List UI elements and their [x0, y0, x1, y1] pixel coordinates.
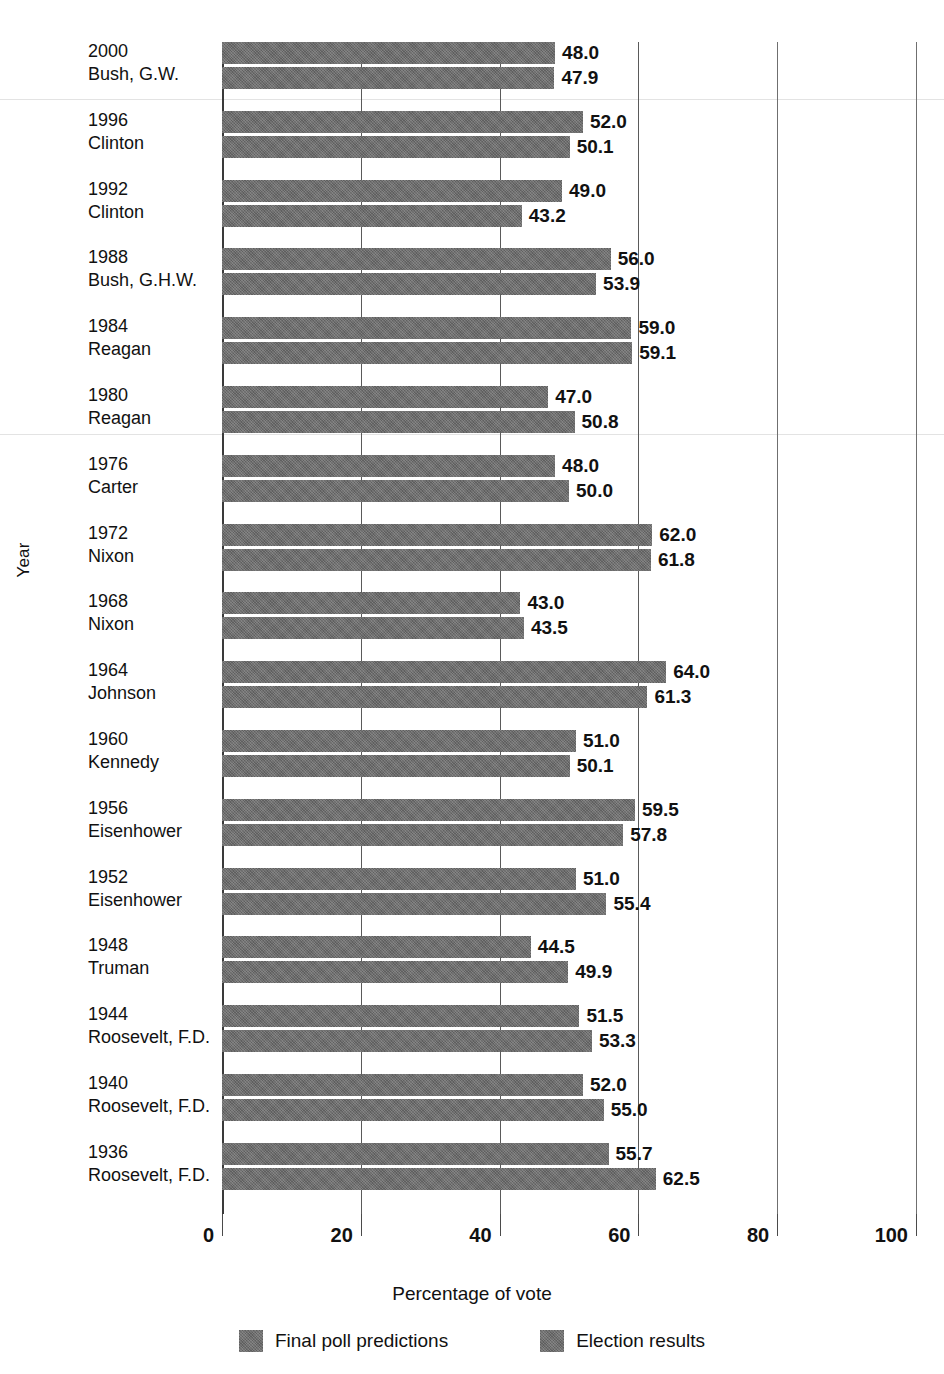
bar-value-poll: 62.0 — [652, 524, 696, 546]
category-year: 1936 — [88, 1141, 216, 1164]
bar-result[interactable] — [222, 617, 524, 639]
bar-poll[interactable] — [222, 455, 555, 477]
y-axis-title: Year — [14, 500, 34, 620]
bar-result[interactable] — [222, 686, 647, 708]
bar-result[interactable] — [222, 342, 632, 364]
bar-result[interactable] — [222, 411, 575, 433]
bar-value-result: 43.5 — [524, 617, 568, 639]
x-tick-60 — [638, 1214, 639, 1236]
bar-value-result: 50.0 — [569, 480, 613, 502]
bar-poll[interactable] — [222, 936, 531, 958]
category-president: Roosevelt, F.D. — [88, 1026, 216, 1049]
category-year: 1952 — [88, 866, 216, 889]
bar-chart-figure: Year 48.047.952.050.149.043.256.053.959.… — [0, 0, 944, 1374]
category-president: Bush, G.H.W. — [88, 269, 216, 292]
bar-value-poll: 55.7 — [609, 1143, 653, 1165]
bar-result[interactable] — [222, 893, 606, 915]
bar-poll[interactable] — [222, 180, 562, 202]
category-president: Reagan — [88, 338, 216, 361]
bar-value-result: 61.3 — [647, 686, 691, 708]
bar-result[interactable] — [222, 205, 522, 227]
category-year: 1976 — [88, 453, 216, 476]
legend-swatch-icon — [540, 1330, 564, 1352]
category-year: 1944 — [88, 1003, 216, 1026]
bar-poll[interactable] — [222, 868, 576, 890]
bar-poll[interactable] — [222, 248, 611, 270]
legend-swatch-icon — [239, 1330, 263, 1352]
bar-result[interactable] — [222, 824, 623, 846]
bar-poll[interactable] — [222, 386, 548, 408]
bar-value-result: 53.9 — [596, 273, 640, 295]
bar-result[interactable] — [222, 755, 570, 777]
bar-result[interactable] — [222, 136, 570, 158]
bar-value-poll: 49.0 — [562, 180, 606, 202]
bar-group: 51.050.1 — [222, 730, 916, 777]
legend-item[interactable]: Final poll predictions — [239, 1330, 448, 1352]
bar-result[interactable] — [222, 1030, 592, 1052]
category-label: 1992Clinton — [88, 178, 216, 224]
bar-value-result: 55.0 — [604, 1099, 648, 1121]
bar-poll[interactable] — [222, 730, 576, 752]
bar-poll[interactable] — [222, 799, 635, 821]
bar-result[interactable] — [222, 1099, 604, 1121]
bar-result[interactable] — [222, 1168, 656, 1190]
category-year: 1964 — [88, 659, 216, 682]
category-president: Truman — [88, 957, 216, 980]
bar-value-poll: 52.0 — [583, 1074, 627, 1096]
bar-group: 52.050.1 — [222, 111, 916, 158]
bar-group: 49.043.2 — [222, 180, 916, 227]
legend-item[interactable]: Election results — [540, 1330, 705, 1352]
bar-poll[interactable] — [222, 1143, 609, 1165]
category-year: 1948 — [88, 934, 216, 957]
category-year: 1988 — [88, 246, 216, 269]
bar-result[interactable] — [222, 67, 554, 89]
bar-poll[interactable] — [222, 111, 583, 133]
bar-group: 44.549.9 — [222, 936, 916, 983]
bar-poll[interactable] — [222, 1005, 579, 1027]
bar-poll[interactable] — [222, 524, 652, 546]
category-label: 1984Reagan — [88, 315, 216, 361]
bar-group: 48.050.0 — [222, 455, 916, 502]
bar-result[interactable] — [222, 549, 651, 571]
category-president: Eisenhower — [88, 820, 216, 843]
bar-poll[interactable] — [222, 661, 666, 683]
bar-group: 43.043.5 — [222, 592, 916, 639]
category-president: Clinton — [88, 201, 216, 224]
bar-result[interactable] — [222, 961, 568, 983]
bar-poll[interactable] — [222, 317, 631, 339]
bar-group: 56.053.9 — [222, 248, 916, 295]
bar-value-poll: 44.5 — [531, 936, 575, 958]
category-president: Nixon — [88, 613, 216, 636]
legend-label: Final poll predictions — [275, 1330, 448, 1352]
bar-value-poll: 51.0 — [576, 868, 620, 890]
bar-value-result: 62.5 — [656, 1168, 700, 1190]
bar-group: 55.762.5 — [222, 1143, 916, 1190]
category-year: 1940 — [88, 1072, 216, 1095]
bar-value-result: 61.8 — [651, 549, 695, 571]
bar-group: 51.055.4 — [222, 868, 916, 915]
bar-value-result: 50.8 — [575, 411, 619, 433]
bar-group: 59.557.8 — [222, 799, 916, 846]
plot-area: 48.047.952.050.149.043.256.053.959.059.1… — [222, 42, 916, 1214]
x-tick-100 — [916, 1214, 917, 1236]
category-president: Roosevelt, F.D. — [88, 1164, 216, 1187]
bar-poll[interactable] — [222, 592, 520, 614]
bar-value-result: 50.1 — [570, 136, 614, 158]
category-label: 1944Roosevelt, F.D. — [88, 1003, 216, 1049]
category-year: 1968 — [88, 590, 216, 613]
bar-poll[interactable] — [222, 1074, 583, 1096]
bar-poll[interactable] — [222, 42, 555, 64]
x-tick-20 — [361, 1214, 362, 1236]
chart-legend: Final poll predictionsElection results — [0, 1330, 944, 1352]
bar-result[interactable] — [222, 273, 596, 295]
bar-value-result: 49.9 — [568, 961, 612, 983]
x-tick-label-0: 0 — [154, 1224, 214, 1247]
category-year: 1980 — [88, 384, 216, 407]
category-year: 1960 — [88, 728, 216, 751]
category-label: 1988Bush, G.H.W. — [88, 246, 216, 292]
bar-group: 62.061.8 — [222, 524, 916, 571]
bar-value-result: 55.4 — [606, 893, 650, 915]
category-president: Carter — [88, 476, 216, 499]
bar-result[interactable] — [222, 480, 569, 502]
bar-group: 59.059.1 — [222, 317, 916, 364]
